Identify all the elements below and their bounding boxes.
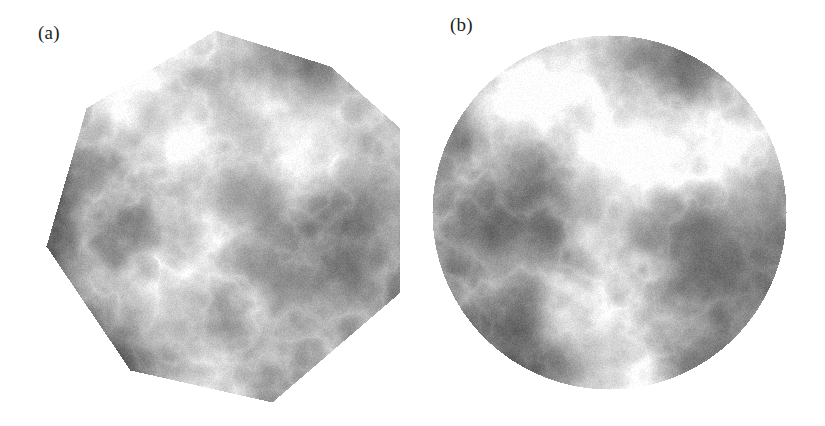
panel-a-plot: [0, 0, 420, 426]
panel-a-label: (a): [38, 22, 60, 44]
panel-b: (b): [415, 0, 825, 426]
panel-b-plot: [415, 0, 825, 426]
panel-b-label: (b): [450, 14, 473, 36]
figure-container: (a) (b): [0, 0, 825, 426]
terrain-field-image: [0, 0, 420, 426]
terrain-field-image: [415, 0, 825, 426]
panel-a: (a): [0, 0, 420, 426]
